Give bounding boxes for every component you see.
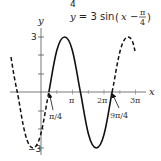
svg-text:y = 3 sin: y = 3 sin <box>69 11 114 22</box>
y-axis-label: y <box>37 15 44 26</box>
annotation-9pi4: 9π/4 <box>110 111 128 120</box>
equation-label: y = 3 sin ( x − π 4 ) <box>69 8 151 27</box>
svg-text:): ) <box>147 12 151 23</box>
9pi4-arrow <box>113 94 120 108</box>
x-tick-2pi: 2π <box>97 96 107 105</box>
annotation-pi4: π/4 <box>49 112 62 121</box>
top-fragment-text: 4 <box>70 0 76 9</box>
sine-chart: 4 y = 3 sin ( x − π 4 ) y x 3 −3 π 2π 3π <box>0 0 161 161</box>
dashed-left-curve <box>11 57 49 148</box>
svg-text:(: ( <box>115 12 119 23</box>
pi4-arrow <box>50 94 54 110</box>
y-tick-neg3: −3 <box>28 144 41 154</box>
x-tick-pi: π <box>69 96 74 105</box>
x-tick-3pi: 3π <box>130 96 140 105</box>
x-axis-label: x <box>149 86 155 97</box>
svg-text:−: − <box>130 11 138 22</box>
svg-text:x: x <box>121 11 127 22</box>
solid-period-curve <box>49 37 112 148</box>
svg-text:π: π <box>140 8 145 17</box>
dashed-right-curve <box>112 37 135 92</box>
y-tick-3: 3 <box>31 32 37 42</box>
svg-text:4: 4 <box>140 18 145 27</box>
